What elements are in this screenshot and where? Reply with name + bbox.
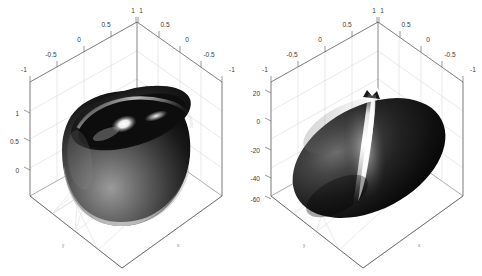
tick-label: 0 [256, 118, 260, 125]
tick-label: -0.5 [45, 51, 57, 58]
tick-label: 0 [318, 36, 322, 43]
x-axis-label: x [418, 243, 421, 248]
tick-label: 0.5 [160, 21, 169, 28]
tick-label: 0 [426, 36, 430, 43]
tick-label: 0 [185, 36, 189, 43]
figure-root: -1 -0.5 0 0.5 1 1 0.5 0 -0.5 -1 [0, 0, 482, 276]
tick-label: 1 [131, 7, 135, 14]
z-axis-ticks [24, 110, 30, 170]
tick-label: 1 [15, 110, 19, 117]
y-axis-label: y [62, 243, 65, 248]
tick-label: 1 [372, 7, 376, 14]
right-surface-plot: -1 -0.5 0 0.5 1 1 0.5 0 -0.5 -1 [241, 0, 482, 276]
surface-mesh [62, 73, 198, 226]
tick-label: -40 [251, 175, 261, 182]
tick-label: -0.5 [444, 51, 456, 58]
tick-label: -1 [262, 66, 268, 73]
tick-label: -0.5 [286, 51, 298, 58]
tick-label: -60 [251, 196, 261, 203]
tick-label: -20 [251, 147, 261, 154]
tick-label: -1 [470, 66, 476, 73]
tick-label: 0.5 [10, 138, 19, 145]
top-left-ticks [271, 17, 377, 82]
left-surface-plot: -1 -0.5 0 0.5 1 1 0.5 0 -0.5 -1 [0, 0, 241, 276]
tick-label: 0.5 [401, 21, 410, 28]
tick-label: 0 [15, 167, 19, 174]
tick-label: 1 [380, 7, 384, 14]
x-axis-label: x [177, 243, 180, 248]
tick-label: -1 [21, 66, 27, 73]
tick-label: 0.5 [101, 21, 110, 28]
z-axis-ticks [265, 90, 271, 199]
left-plot-canvas: -1 -0.5 0 0.5 1 1 0.5 0 -0.5 -1 [0, 0, 241, 276]
tick-label: -1 [229, 66, 235, 73]
surface-mesh [272, 74, 466, 243]
top-left-ticks [30, 17, 136, 82]
tick-label: 1 [139, 7, 143, 14]
tick-label: 20 [253, 90, 261, 97]
tick-label: 0 [77, 36, 81, 43]
tick-label: 0.5 [342, 21, 351, 28]
right-plot-canvas: -1 -0.5 0 0.5 1 1 0.5 0 -0.5 -1 [241, 0, 482, 276]
tick-label: -0.5 [203, 51, 215, 58]
y-axis-label: y [303, 243, 306, 248]
